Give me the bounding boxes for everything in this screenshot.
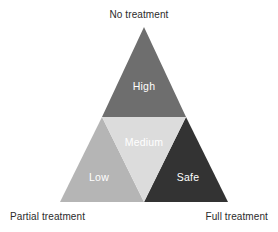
triangle-chart: High Medium Low Safe <box>0 0 278 232</box>
region-safe-label: Safe <box>177 171 199 183</box>
treatment-risk-diagram: High Medium Low Safe No treatment Partia… <box>0 0 278 232</box>
region-medium-label: Medium <box>125 136 164 148</box>
corner-label-full-treatment: Full treatment <box>205 211 268 223</box>
corner-label-partial-treatment: Partial treatment <box>10 211 85 223</box>
region-high-label: High <box>133 80 155 92</box>
corner-label-no-treatment: No treatment <box>0 9 278 21</box>
region-low-label: Low <box>89 171 109 183</box>
